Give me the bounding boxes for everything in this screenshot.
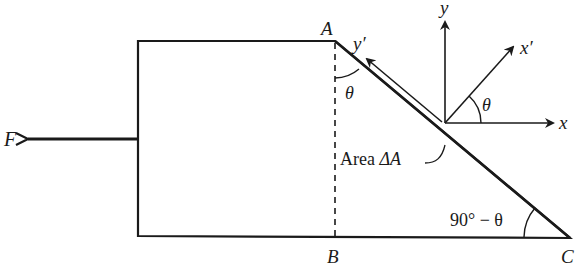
theta-arc-origin	[469, 96, 481, 123]
block-outline	[138, 41, 570, 238]
y-prime-label: y′	[351, 33, 366, 54]
theta-label-a: θ	[345, 83, 354, 103]
area-label-prefix: Area	[340, 149, 379, 169]
point-b-label: B	[327, 246, 339, 267]
theta-arc-a	[335, 69, 359, 78]
theta-label-origin: θ	[482, 95, 491, 115]
x-prime-label: x′	[519, 37, 533, 58]
y-prime-axis-arrow	[367, 59, 442, 122]
area-label: Area ΔA	[340, 149, 402, 169]
stress-block-diagram: F A B C θ y′ y x x′ θ Area ΔA 90° − θ	[0, 0, 576, 272]
angle-label-c-text: 90° − θ	[450, 210, 503, 230]
area-leader-line	[425, 145, 445, 163]
force-label: F	[3, 128, 17, 150]
point-c-label: C	[561, 246, 574, 267]
x-axis-label: x	[558, 112, 568, 133]
point-a-label: A	[319, 18, 333, 39]
area-label-symbol: ΔA	[378, 149, 402, 169]
angle-label-c: 90° − θ	[450, 210, 503, 230]
y-axis-label: y	[438, 0, 449, 18]
angle-arc-c	[524, 208, 535, 237]
